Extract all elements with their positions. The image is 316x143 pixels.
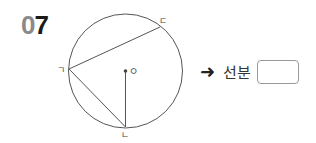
center-label: ㅇ bbox=[129, 66, 138, 77]
chord-giyeok-nieun bbox=[69, 69, 126, 127]
point-label-nieun: ㄴ bbox=[121, 130, 129, 140]
arrow-right-icon: ➜ bbox=[200, 63, 218, 81]
center-point bbox=[124, 69, 128, 73]
answer-prefix-label: 선분 bbox=[223, 61, 251, 82]
answer-input-box[interactable] bbox=[257, 60, 299, 84]
point-label-giyeok: ㄱ bbox=[57, 65, 65, 75]
point-label-digeut: ㄷ bbox=[159, 16, 167, 26]
answer-row: ➜ 선분 bbox=[200, 59, 299, 84]
